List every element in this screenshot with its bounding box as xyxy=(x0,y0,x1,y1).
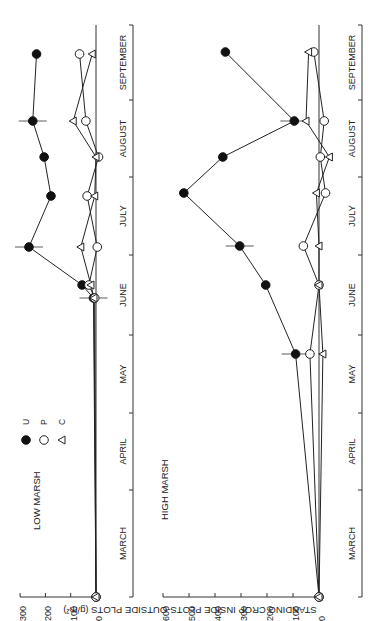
data-point-C xyxy=(312,189,319,197)
month-label: MAY xyxy=(118,365,128,384)
month-label: APRIL xyxy=(347,438,357,464)
rotated-standing-crop-chart: 0100200300LOW MARSHUPCMARCHAPRILMAYJUNEJ… xyxy=(0,0,383,621)
panel-title: HIGH MARSH xyxy=(159,459,170,520)
data-point-P xyxy=(75,50,84,59)
data-point-C xyxy=(302,117,309,125)
data-point-U xyxy=(221,48,230,57)
data-point-P xyxy=(316,153,325,162)
data-point-U xyxy=(290,117,299,126)
month-label: MARCH xyxy=(347,527,357,560)
data-point-C xyxy=(77,243,84,251)
data-point-P xyxy=(320,117,329,126)
data-point-U xyxy=(219,153,228,162)
data-point-U xyxy=(261,281,270,290)
data-point-P xyxy=(299,242,308,251)
legend-label: P xyxy=(39,419,49,425)
panel-title: LOW MARSH xyxy=(31,471,42,530)
data-point-U xyxy=(28,117,37,126)
legend-marker xyxy=(40,436,49,445)
data-point-P xyxy=(321,189,330,198)
month-label: MAY xyxy=(347,365,357,384)
month-label: JULY xyxy=(118,205,128,226)
y-axis-label: STANDING CROP INSIDE PLOTS-OUTSIDE PLOTS… xyxy=(63,605,317,616)
low-marsh-panel: 0100200300LOW MARSHUPCMARCHAPRILMAYJUNEJ… xyxy=(15,25,133,621)
data-point-P xyxy=(93,243,102,252)
data-point-C xyxy=(69,117,76,125)
data-point-U xyxy=(235,242,244,251)
month-label: AUGUST xyxy=(347,119,357,157)
month-label: MARCH xyxy=(118,527,128,560)
series-line-C xyxy=(73,54,96,597)
chart-canvas: 0100200300LOW MARSHUPCMARCHAPRILMAYJUNEJ… xyxy=(0,0,383,621)
value-tick-label: 0 xyxy=(317,616,327,621)
data-point-U xyxy=(291,350,300,359)
month-label: JUNE xyxy=(118,283,128,307)
data-point-P xyxy=(306,350,315,359)
month-label: JUNE xyxy=(347,283,357,307)
legend-label: U xyxy=(21,419,31,425)
data-point-P xyxy=(82,117,91,126)
high-marsh-panel: 0100200300400500600HIGH MARSHMARCHAPRILM… xyxy=(159,25,362,621)
month-label: JULY xyxy=(347,205,357,226)
month-label: APRIL xyxy=(118,438,128,464)
month-label: AUGUST xyxy=(118,119,128,157)
data-point-U xyxy=(32,50,41,59)
series-line-C xyxy=(306,52,329,597)
data-point-U xyxy=(47,192,56,201)
value-tick-label: 300 xyxy=(18,606,28,621)
value-tick-label: 200 xyxy=(43,606,53,621)
series-line-U xyxy=(184,52,319,597)
month-label: SEPTEMBER xyxy=(347,34,357,90)
legend-marker xyxy=(58,436,65,444)
legend-label: C xyxy=(57,419,67,425)
legend-marker xyxy=(22,436,31,445)
month-label: SEPTEMBER xyxy=(118,34,128,90)
data-point-U xyxy=(25,243,34,252)
data-point-U xyxy=(40,153,49,162)
data-point-U xyxy=(180,189,189,198)
